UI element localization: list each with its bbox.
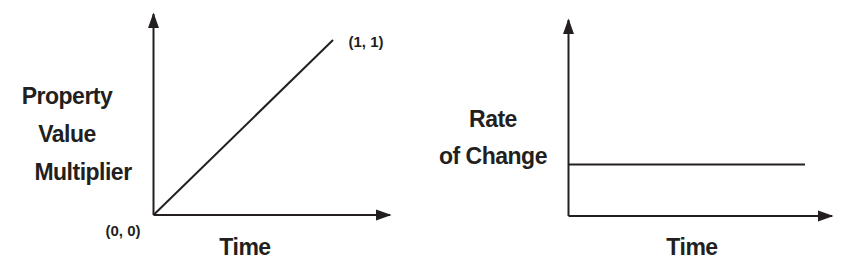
linear-growth-line — [154, 40, 334, 215]
right-xlabel: Time — [666, 234, 717, 260]
end-point-label: (1, 1) — [348, 33, 383, 50]
right-ylabel-line1: Rate — [469, 106, 517, 132]
left-ylabel-line1: Property — [22, 83, 113, 109]
left-ylabel-line3: Multiplier — [34, 159, 132, 185]
left-ylabel-line2: Value — [38, 121, 96, 147]
origin-point-label: (0, 0) — [105, 222, 140, 239]
right-ylabel-line2: of Change — [439, 143, 547, 169]
left-chart: Property Value Multiplier Time (0, 0) (1… — [22, 14, 390, 260]
diagram-canvas: Property Value Multiplier Time (0, 0) (1… — [0, 0, 854, 275]
left-xlabel: Time — [219, 234, 270, 260]
right-chart: Rate of Change Time — [439, 20, 832, 260]
